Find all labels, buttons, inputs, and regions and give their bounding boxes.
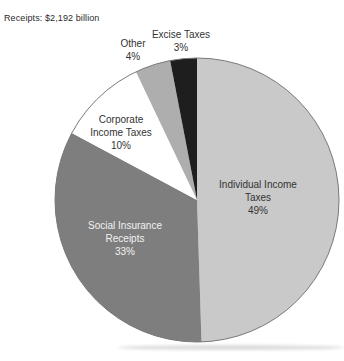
pie-drop-shadow xyxy=(118,345,344,350)
slice-label-corporate-income-taxes: Corporate Income Taxes 10% xyxy=(88,113,154,152)
slice-percent: 49% xyxy=(214,204,302,217)
slice-name: Individual Income Taxes xyxy=(219,179,297,203)
slice-name: Social Insurance Receipts xyxy=(88,220,162,244)
slice-label-social-insurance-receipts: Social Insurance Receipts 33% xyxy=(82,219,168,258)
pie-chart-figure: Receipts: $2,192 billion Excise Taxes 3%… xyxy=(0,0,344,361)
slice-percent: 33% xyxy=(82,245,168,258)
slice-percent: 10% xyxy=(88,139,154,152)
slice-name: Corporate Income Taxes xyxy=(90,114,152,138)
slice-name: Other xyxy=(120,38,145,49)
slice-label-other: Other 4% xyxy=(103,37,163,63)
slice-label-individual-income-taxes: Individual Income Taxes 49% xyxy=(214,178,302,217)
slice-percent: 4% xyxy=(103,50,163,63)
